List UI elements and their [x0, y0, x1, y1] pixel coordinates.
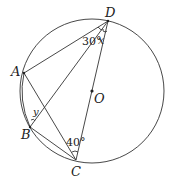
- geometry-diagram: D A B C O 30° x y 40°: [0, 0, 171, 186]
- angle-label-y: y: [32, 106, 39, 117]
- point-d: [107, 20, 109, 22]
- label-c: C: [71, 164, 81, 179]
- point-a: [23, 72, 25, 74]
- angle-arc-acd: [72, 151, 78, 152]
- label-d: D: [104, 5, 116, 20]
- angle-arc-bdc: [103, 31, 107, 32]
- label-o: O: [94, 91, 105, 106]
- label-a: A: [10, 64, 20, 79]
- angle-label-40: 40°: [66, 136, 86, 149]
- angle-label-x: x: [98, 34, 105, 47]
- label-b: B: [20, 127, 31, 142]
